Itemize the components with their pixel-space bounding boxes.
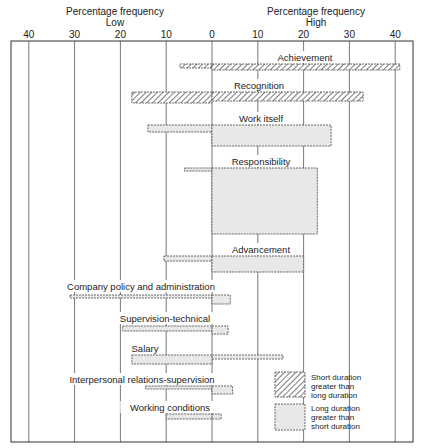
bar-high-segment [212, 295, 230, 304]
legend-label-long: Long duration greater than short duratio… [311, 404, 362, 431]
tick-label: 40 [23, 29, 35, 40]
category-label: Responsibility [232, 156, 291, 167]
bar-high-segment [212, 355, 283, 359]
category-label: Working conditions [130, 402, 210, 413]
bar-group: Supervision-technical [107, 312, 228, 334]
bar-low-segment [148, 125, 212, 132]
diverging-bar-chart: Percentage frequency Low Percentage freq… [0, 0, 424, 448]
bar-low-segment [166, 414, 212, 419]
tick-label: 30 [344, 29, 356, 40]
bar-low-segment [164, 256, 212, 261]
legend: Short duration greater than long duratio… [275, 372, 364, 431]
right-axis-subtitle: High [306, 17, 327, 28]
legend-swatch-hatched [275, 372, 305, 397]
bar-low-segment [132, 355, 212, 364]
bar-high-segment [212, 125, 331, 146]
category-label: Supervision-technical [120, 313, 210, 324]
category-label: Achievement [278, 52, 333, 63]
bar-group: Advancement [164, 243, 304, 272]
tick-label: 20 [115, 29, 127, 40]
x-axis-ticks: 40302010010203040 [23, 29, 401, 40]
right-axis-title: Percentage frequency [267, 6, 365, 17]
left-axis-subtitle: Low [106, 17, 125, 28]
tick-label: 10 [252, 29, 264, 40]
bar-group: Achievement [180, 51, 400, 70]
bar-high-segment [212, 414, 221, 419]
legend-label-short: Short duration greater than long duratio… [311, 373, 364, 400]
header-labels: Percentage frequency Low Percentage freq… [66, 6, 365, 28]
category-label: Recognition [234, 80, 284, 91]
bar-high-segment [212, 386, 233, 394]
bar-group: Working conditions [120, 401, 221, 419]
tick-label: 30 [69, 29, 81, 40]
bar-low-segment [123, 326, 212, 331]
category-label: Company policy and administration [67, 281, 215, 292]
bars: AchievementRecognitionWork itselfRespons… [47, 51, 400, 419]
tick-label: 40 [390, 29, 402, 40]
bar-low-segment [180, 64, 212, 68]
category-label: Interpersonal relations-supervision [69, 374, 214, 385]
bar-group: Salary [127, 342, 283, 364]
bar-group: Company policy and administration [52, 280, 231, 304]
bar-high-segment [212, 326, 228, 334]
category-label: Advancement [232, 244, 290, 255]
bar-low-segment [70, 295, 212, 298]
bar-high-segment [212, 92, 363, 101]
bar-group: Interpersonal relations-supervision [47, 373, 237, 394]
bar-high-segment [212, 168, 317, 234]
bar-high-segment [212, 64, 400, 70]
category-label: Work itself [239, 113, 284, 124]
left-axis-title: Percentage frequency [66, 6, 164, 17]
bar-low-segment [132, 92, 212, 103]
tick-label: 20 [298, 29, 310, 40]
bar-low-segment [185, 168, 212, 171]
bar-low-segment [146, 386, 212, 389]
tick-label: 10 [161, 29, 173, 40]
bar-group: Responsibility [185, 155, 318, 234]
bar-high-segment [212, 256, 304, 272]
category-label: Salary [132, 343, 159, 354]
tick-label: 0 [209, 29, 215, 40]
legend-swatch-gray [275, 404, 305, 430]
